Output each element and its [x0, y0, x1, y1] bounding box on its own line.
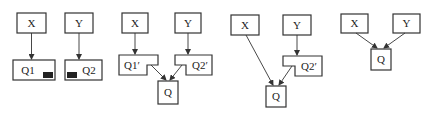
node-q-label: Q	[272, 90, 280, 102]
node-y-label: Y	[293, 19, 301, 31]
node-q2prime-label: Q2′	[192, 59, 208, 71]
edge-x-to-q	[356, 33, 377, 48]
panel-4: X Y Q	[341, 14, 420, 70]
node-x-label: X	[28, 17, 36, 29]
node-x-label: X	[241, 19, 249, 31]
node-q1prime-label: Q1′	[124, 59, 140, 71]
edge-y-to-q	[384, 33, 405, 48]
panel-2: X Q1′ Y Q2′ Q	[119, 13, 212, 104]
node-y-label: Y	[184, 17, 192, 29]
edge-q1prime-to-q	[151, 65, 166, 80]
edge-q2prime-to-q	[279, 66, 292, 85]
node-y-label: Y	[403, 17, 411, 29]
panel-3: X Y Q2′ Q	[231, 15, 322, 107]
node-q1-label: Q1	[21, 64, 34, 76]
edge-q2prime-to-q	[170, 65, 182, 80]
edge-x-to-q	[246, 35, 273, 85]
panel-1: X Q1 Y Q2	[13, 13, 102, 80]
node-q2prime-label: Q2′	[301, 60, 317, 72]
node-q2-label: Q2	[82, 64, 95, 76]
filled-marker-icon	[67, 72, 77, 78]
node-x-label: X	[131, 17, 139, 29]
node-x-label: X	[351, 17, 359, 29]
node-y-label: Y	[75, 17, 83, 29]
node-q-label: Q	[164, 86, 172, 98]
diagram-canvas: X Q1 Y Q2 X Q1′ Y Q2′ Q X Y	[0, 0, 431, 117]
filled-marker-icon	[43, 72, 53, 78]
node-q-label: Q	[377, 53, 385, 65]
